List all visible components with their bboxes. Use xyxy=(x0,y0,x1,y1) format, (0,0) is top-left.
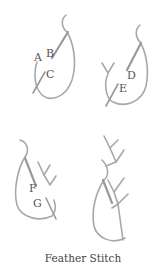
diagram-caption: Feather Stitch xyxy=(0,252,166,264)
label-c: C xyxy=(46,68,54,81)
label-b: B xyxy=(46,47,54,60)
label-f: F xyxy=(29,182,37,195)
label-a: A xyxy=(33,51,43,64)
feather-stitch-diagram: A B C D E F G xyxy=(0,0,166,272)
step4-illustration xyxy=(93,136,128,241)
label-d: D xyxy=(127,69,136,82)
label-e: E xyxy=(119,82,127,95)
label-g: G xyxy=(33,197,42,210)
